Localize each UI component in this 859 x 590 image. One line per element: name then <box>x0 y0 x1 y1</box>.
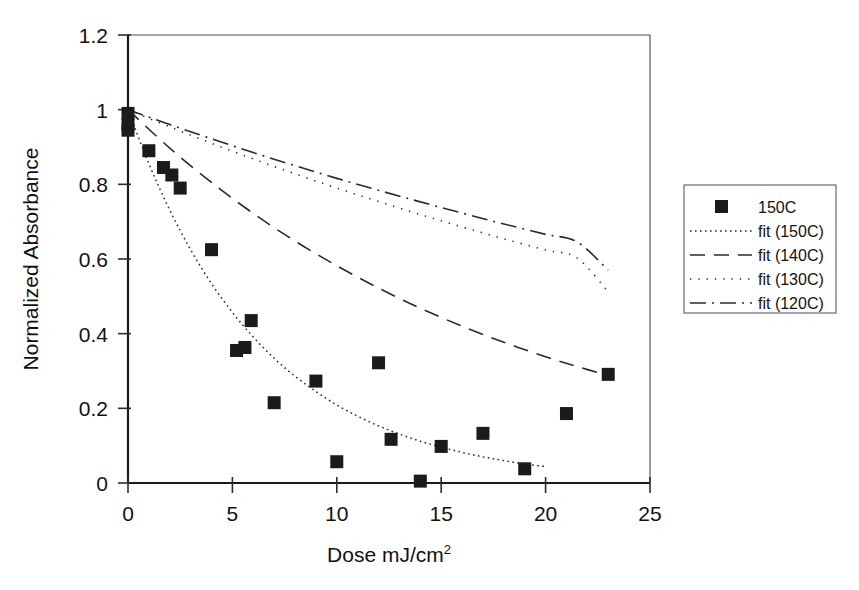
data-point-marker <box>142 144 155 157</box>
data-point-marker <box>372 356 385 369</box>
y-tick-label: 0.2 <box>79 397 108 420</box>
x-tick-label: 5 <box>227 502 239 525</box>
legend-entry-label: fit (130C) <box>758 271 824 288</box>
chart-figure: 00.20.40.60.811.2 0510152025 Normalized … <box>0 0 859 590</box>
legend-marker-square-icon <box>715 200 728 213</box>
data-point-marker <box>560 407 573 420</box>
x-axis-ticks: 0510152025 <box>122 477 662 525</box>
data-point-marker <box>518 462 531 475</box>
x-axis-title-base: Dose mJ/cm <box>327 543 444 566</box>
y-tick-label: 0 <box>96 472 108 495</box>
x-tick-label: 0 <box>122 502 134 525</box>
x-axis-title-superscript: 2 <box>444 542 451 557</box>
data-point-marker <box>238 341 251 354</box>
data-point-marker <box>174 182 187 195</box>
data-point-marker <box>385 433 398 446</box>
fit-curve-fit-120c- <box>128 110 608 271</box>
data-point-marker <box>414 475 427 488</box>
x-tick-label: 10 <box>325 502 348 525</box>
data-point-marker <box>309 375 322 388</box>
fit-curves-group <box>128 110 608 467</box>
legend-entry-label: fit (140C) <box>758 247 824 264</box>
data-point-marker <box>122 107 135 120</box>
data-point-marker <box>435 440 448 453</box>
x-axis-title: Dose mJ/cm2 <box>327 542 451 566</box>
data-points-group <box>122 107 615 488</box>
data-point-marker <box>268 396 281 409</box>
data-point-marker <box>476 427 489 440</box>
x-tick-label: 15 <box>430 502 453 525</box>
legend-entry-label: fit (120C) <box>758 295 824 312</box>
x-tick-label: 25 <box>638 502 661 525</box>
fit-curve-fit-140c- <box>128 110 608 376</box>
y-tick-label: 1.2 <box>79 24 108 47</box>
y-tick-label: 0.4 <box>79 323 109 346</box>
scatter-plot-svg: 00.20.40.60.811.2 0510152025 Normalized … <box>0 0 859 590</box>
y-axis-title: Normalized Absorbance <box>19 148 42 371</box>
y-tick-label: 1 <box>96 99 108 122</box>
data-point-marker <box>330 455 343 468</box>
svg-text:Dose mJ/cm2: Dose mJ/cm2 <box>327 542 451 566</box>
y-tick-label: 0.6 <box>79 248 108 271</box>
legend-entry-label: fit (150C) <box>758 223 824 240</box>
x-tick-label: 20 <box>534 502 557 525</box>
legend: 150Cfit (150C)fit (140C)fit (130C)fit (1… <box>684 185 836 313</box>
fit-curve-fit-150c- <box>128 110 546 467</box>
data-point-marker <box>205 243 218 256</box>
data-point-marker <box>165 169 178 182</box>
data-point-marker <box>602 368 615 381</box>
data-point-marker <box>245 314 258 327</box>
y-axis-ticks: 00.20.40.60.811.2 <box>79 24 131 495</box>
legend-entry-label: 150C <box>758 199 796 216</box>
data-point-marker <box>122 124 135 137</box>
y-tick-label: 0.8 <box>79 173 108 196</box>
